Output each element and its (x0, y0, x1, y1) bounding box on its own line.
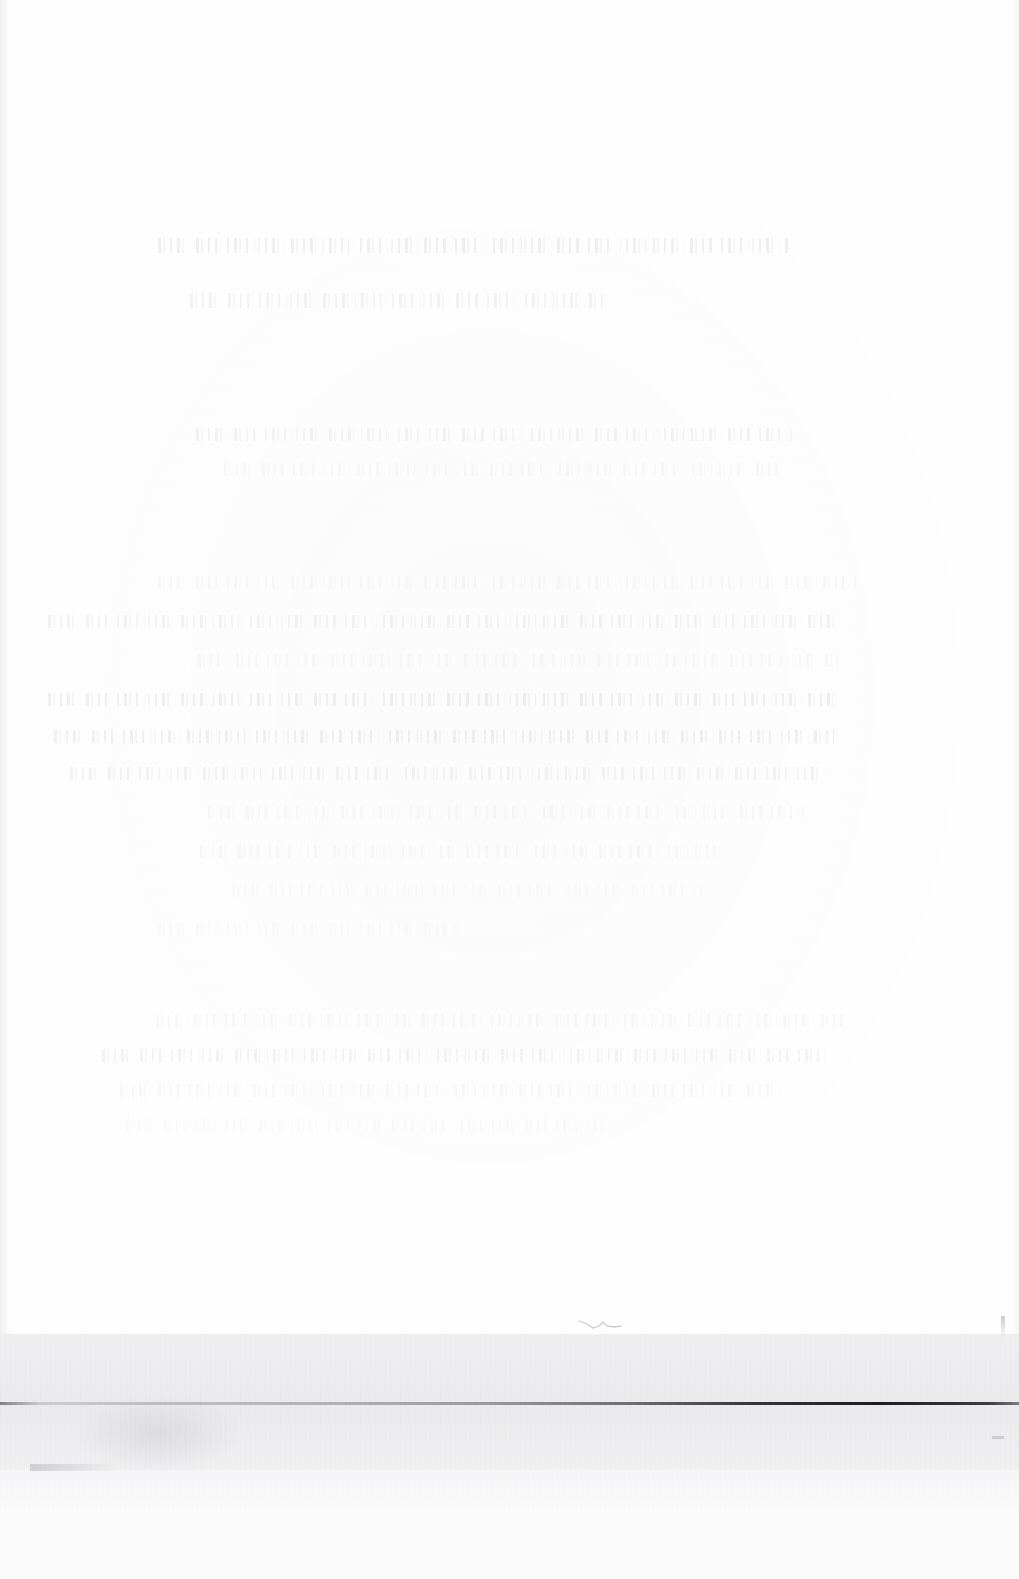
body-line (48, 693, 840, 706)
lower-page-strip (0, 1470, 1019, 1579)
body-line (48, 615, 834, 628)
body-line (158, 923, 458, 936)
intro-line (224, 463, 784, 476)
dark-horizontal-rule (0, 1402, 1019, 1405)
closing-line (156, 1014, 846, 1027)
intro-line (196, 428, 792, 441)
heading-line (158, 238, 790, 253)
edge-nick-lower (992, 1436, 1004, 1439)
body-paragraph (48, 576, 848, 947)
heading-line (190, 293, 608, 308)
left-edge-shadow (0, 0, 10, 1334)
body-line (232, 884, 702, 897)
closing-line (120, 1084, 780, 1097)
strip-edge-mark (30, 1464, 120, 1471)
body-line (158, 576, 858, 589)
right-edge-shadow (1011, 0, 1019, 1334)
document-heading (158, 238, 798, 348)
intro-paragraph (196, 428, 816, 487)
edge-nick (1001, 1316, 1005, 1338)
body-line (54, 730, 834, 743)
pen-squiggle-mark (578, 1316, 622, 1332)
closing-line (126, 1119, 606, 1132)
body-line (200, 845, 720, 858)
closing-paragraph (96, 1014, 836, 1143)
body-line (70, 767, 830, 780)
body-line (198, 654, 838, 667)
body-line (208, 806, 804, 819)
scanned-document-page (0, 0, 1019, 1579)
closing-line (102, 1049, 826, 1062)
